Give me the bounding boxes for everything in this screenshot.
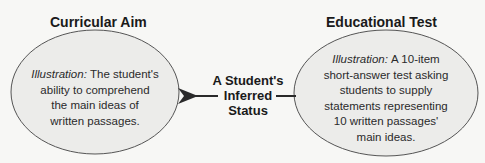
description-line: main ideas. bbox=[357, 131, 416, 143]
illustration-label: Illustration: bbox=[332, 53, 391, 65]
center-line: A Student's bbox=[212, 73, 283, 88]
center-line: Inferred bbox=[224, 88, 272, 103]
description-line: ability to comprehend bbox=[40, 84, 149, 96]
description-line: written passages. bbox=[50, 115, 140, 127]
description-line: statements representing bbox=[324, 100, 447, 112]
description-line: students to supply bbox=[340, 84, 433, 96]
description-line: 10 written passages' bbox=[334, 115, 438, 127]
center-line: Status bbox=[228, 103, 268, 118]
description-line: short-answer test asking bbox=[324, 69, 449, 81]
illustration-label: Illustration: bbox=[31, 68, 90, 80]
description-line: The student's bbox=[90, 68, 159, 80]
educational-test-description: Illustration: A 10-item short-answer tes… bbox=[306, 52, 466, 145]
diagram: Curricular Aim Educational Test Illustra… bbox=[0, 0, 485, 163]
description-line: A 10-item bbox=[391, 53, 440, 65]
curricular-aim-title: Curricular Aim bbox=[50, 14, 147, 30]
description-line: the main ideas of bbox=[51, 99, 139, 111]
inferred-status-label: A Student's Inferred Status bbox=[200, 73, 296, 118]
curricular-aim-description: Illustration: The student's ability to c… bbox=[20, 67, 170, 129]
educational-test-title: Educational Test bbox=[326, 14, 437, 30]
